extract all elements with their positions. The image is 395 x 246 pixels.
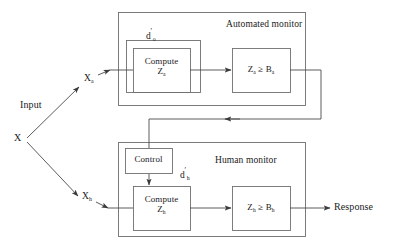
human-compute-line2: Zh (133, 205, 190, 214)
automated-compute-line1: Compute (145, 56, 179, 66)
human-sensitivity-prime: ′ (184, 166, 186, 175)
signal-detection-diagram: Input X Xa Xh Automated monitor d′o Comp… (0, 0, 395, 246)
automated-compute-line2: Za (133, 67, 190, 76)
automated-sensitivity-sub: o (153, 36, 156, 42)
human-criterion-b: B (266, 202, 272, 212)
signal-xa-label: Xa (84, 74, 94, 84)
response-label: Response (334, 202, 373, 213)
human-criterion-operator: ≥ (258, 202, 263, 212)
feedback-path-automated-to-control (149, 70, 321, 148)
automated-criterion-operator: ≥ (258, 64, 263, 74)
automated-monitor-title: Automated monitor (226, 20, 302, 30)
signal-xh-label: Xh (82, 192, 92, 202)
arrow-x-to-xa (27, 87, 79, 138)
human-compute-label: Compute Zh (133, 195, 190, 215)
arrow-x-to-xh (27, 142, 78, 196)
automated-criterion-b-sub: a (272, 69, 275, 75)
signal-xa-sub: a (91, 78, 94, 84)
arrow-xh-into-compute (96, 202, 108, 208)
automated-criterion-label: Za ≥ Ba (232, 65, 290, 74)
control-label: Control (125, 155, 172, 164)
human-compute-z-sub: h (163, 209, 166, 215)
automated-compute-label: Compute Za (133, 57, 190, 77)
automated-criterion-z-sub: a (253, 69, 256, 75)
signal-xh-base: X (82, 191, 89, 201)
human-sensitivity-label: d′h (180, 168, 190, 181)
signal-xa-base: X (84, 73, 91, 83)
input-label: Input (20, 100, 42, 111)
signal-xh-sub: h (89, 196, 92, 202)
automated-sensitivity-prime: ′ (150, 27, 152, 36)
arrow-xa-into-compute (98, 70, 110, 75)
automated-criterion-b: B (266, 64, 272, 74)
automated-compute-z-sub: a (163, 71, 166, 77)
input-source-label: X (14, 133, 21, 144)
human-sensitivity-sub: h (187, 175, 190, 181)
human-compute-line1: Compute (145, 194, 179, 204)
human-criterion-z-sub: h (253, 207, 256, 213)
human-monitor-title: Human monitor (215, 156, 277, 166)
automated-sensitivity-label: d′o (146, 29, 156, 42)
human-criterion-b-sub: h (272, 207, 275, 213)
human-criterion-label: Zh ≥ Bh (232, 203, 290, 212)
